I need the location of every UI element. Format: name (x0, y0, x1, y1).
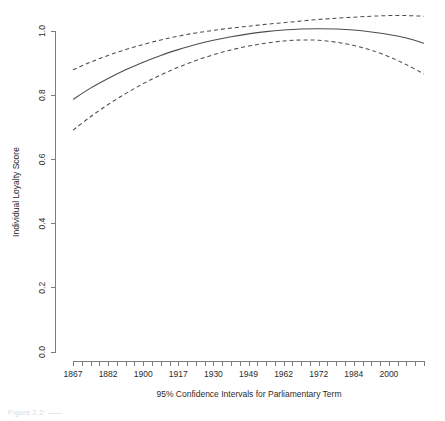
upper-confidence-curve (73, 16, 424, 70)
y-tick-label: 0.6 (37, 153, 47, 165)
x-axis-title: 95% Confidence Intervals for Parliamenta… (156, 389, 341, 399)
figure-caption: Figure 2.2: —— (8, 409, 63, 416)
x-tick-label: 1962 (274, 369, 293, 379)
x-axis: 1867188219001917193019491962197219842000 (64, 361, 425, 379)
y-tick-label: 0.0 (37, 346, 47, 358)
loyalty-score-chart: 0.00.20.40.60.81.0 186718821900191719301… (0, 0, 445, 421)
figure-container: 0.00.20.40.60.81.0 186718821900191719301… (0, 0, 445, 421)
y-tick-label: 0.4 (37, 217, 47, 229)
lower-confidence-curve (73, 40, 424, 130)
data-series-group (73, 16, 424, 131)
x-tick-label: 1900 (134, 369, 153, 379)
y-axis-ticks (51, 31, 56, 352)
x-tick-label: 1984 (344, 369, 363, 379)
x-axis-ticks (74, 361, 425, 366)
x-axis-tick-labels: 1867188219001917193019491962197219842000 (64, 369, 399, 379)
x-tick-label: 1930 (204, 369, 223, 379)
y-axis: 0.00.20.40.60.81.0 (37, 25, 56, 358)
x-tick-label: 1882 (99, 369, 118, 379)
x-tick-label: 1949 (239, 369, 258, 379)
x-tick-label: 2000 (379, 369, 398, 379)
x-tick-label: 1917 (169, 369, 188, 379)
y-tick-label: 0.8 (37, 89, 47, 101)
y-axis-title: Individual Loyalty Score (11, 147, 21, 237)
y-tick-label: 0.2 (37, 282, 47, 294)
x-tick-label: 1972 (309, 369, 328, 379)
fitted-loyalty-curve (73, 29, 424, 100)
x-tick-label: 1867 (64, 369, 83, 379)
y-axis-tick-labels: 0.00.20.40.60.81.0 (37, 25, 47, 358)
y-tick-label: 1.0 (37, 25, 47, 37)
